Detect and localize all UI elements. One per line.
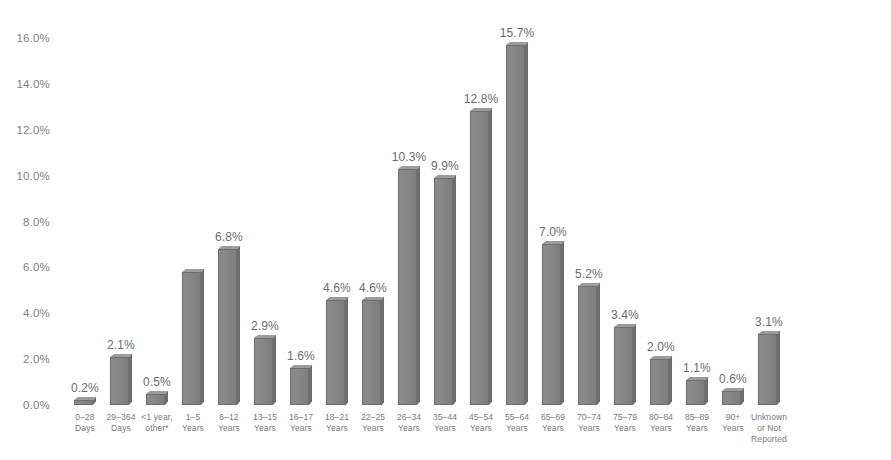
bar-group[interactable]: 9.9%35–44Years: [427, 0, 463, 460]
bar[interactable]: 9.9%: [434, 178, 456, 405]
bar-side-face: [417, 165, 420, 405]
bar-group[interactable]: 1.1%85–89Years: [679, 0, 715, 460]
bar-top-face: [398, 166, 421, 169]
bar-front-face: [686, 380, 705, 405]
x-axis-category-line: 13–15: [253, 412, 277, 422]
bar-group[interactable]: 2.1%29–364Days: [103, 0, 139, 460]
bar-front-face: [722, 391, 741, 405]
bar-group[interactable]: 4.6%18–21Years: [319, 0, 355, 460]
bar-group[interactable]: 15.7%55–64Years: [499, 0, 535, 460]
bar-group[interactable]: 1–5Years: [175, 0, 211, 460]
bar-front-face: [434, 178, 453, 405]
y-axis-tick-label: 10.0%: [16, 170, 50, 182]
bar-value-label: 12.8%: [464, 92, 499, 106]
bar-value-label: 1.6%: [287, 349, 315, 363]
bar[interactable]: 5.2%: [578, 286, 600, 405]
bar[interactable]: 4.6%: [326, 300, 348, 406]
bar-side-face: [273, 335, 276, 405]
bar-side-face: [633, 323, 636, 405]
bar-top-face: [758, 331, 781, 334]
x-axis-category-line: 70–74: [577, 412, 601, 422]
bar[interactable]: [182, 272, 204, 405]
bar-top-face: [326, 297, 349, 300]
bar-top-face: [362, 297, 385, 300]
bar-group[interactable]: 0.6%90+Years: [715, 0, 751, 460]
bar[interactable]: 2.1%: [110, 357, 132, 405]
bar[interactable]: 3.1%: [758, 334, 780, 405]
bar-value-label: 0.6%: [719, 372, 747, 386]
bar-group[interactable]: 2.9%13–15Years: [247, 0, 283, 460]
bar[interactable]: 3.4%: [614, 327, 636, 405]
bar[interactable]: 12.8%: [470, 111, 492, 405]
x-axis-category-line: 65–69: [541, 412, 565, 422]
bar-group[interactable]: 3.4%75–79Years: [607, 0, 643, 460]
y-axis-tick-label: 4.0%: [23, 307, 50, 319]
x-axis-category-line: 22–25: [361, 412, 385, 422]
x-axis-category-line: 18–21: [325, 412, 349, 422]
bar-group[interactable]: 6.8%6–12Years: [211, 0, 247, 460]
bar-group[interactable]: 5.2%70–74Years: [571, 0, 607, 460]
bar-front-face: [74, 400, 93, 405]
x-axis-category-line: 26–34: [397, 412, 421, 422]
bar-chart: 0.0%2.0%4.0%6.0%8.0%10.0%12.0%14.0%16.0%…: [0, 0, 891, 460]
bar-side-face: [705, 376, 708, 405]
bar-value-label: 3.4%: [611, 308, 639, 322]
bar[interactable]: 1.1%: [686, 380, 708, 405]
y-axis-tick-label: 14.0%: [16, 78, 50, 90]
x-axis-category-line: 16–17: [289, 412, 313, 422]
bar[interactable]: 2.9%: [254, 338, 276, 405]
bar-top-face: [434, 175, 457, 178]
x-axis-category-line: 6–12: [219, 412, 238, 422]
bar-top-face: [110, 354, 133, 357]
bar-group[interactable]: 7.0%65–69Years: [535, 0, 571, 460]
bar-group[interactable]: 2.0%80–84Years: [643, 0, 679, 460]
bar-value-label: 0.5%: [143, 375, 171, 389]
bar-value-label: 2.1%: [107, 338, 135, 352]
x-axis-category-line: 0–28: [75, 412, 94, 422]
y-axis-tick-label: 12.0%: [16, 124, 50, 136]
bar[interactable]: 0.2%: [74, 400, 96, 405]
bar-side-face: [453, 174, 456, 405]
x-axis-category-line: Reported: [743, 434, 795, 445]
bar-front-face: [470, 111, 489, 405]
bar-group[interactable]: 0.5%<1 year,other*: [139, 0, 175, 460]
x-axis-category-label: Unknownor NotReported: [743, 412, 795, 445]
bar[interactable]: 0.6%: [722, 391, 744, 405]
bar-group[interactable]: 12.8%45–54Years: [463, 0, 499, 460]
bar-top-face: [218, 246, 241, 249]
bar-group[interactable]: 10.3%26–34Years: [391, 0, 427, 460]
bar-side-face: [309, 364, 312, 405]
bar-value-label: 6.8%: [215, 230, 243, 244]
bar[interactable]: 7.0%: [542, 244, 564, 405]
bar-group[interactable]: 0.2%0–28Days: [67, 0, 103, 460]
bar[interactable]: 1.6%: [290, 368, 312, 405]
x-axis-category-line: 80–84: [649, 412, 673, 422]
bar-value-label: 7.0%: [539, 225, 567, 239]
bar-value-label: 2.0%: [647, 340, 675, 354]
bar-group[interactable]: 4.6%22–25Years: [355, 0, 391, 460]
bar-top-face: [146, 391, 169, 394]
bar[interactable]: 2.0%: [650, 359, 672, 405]
x-axis-category-line: 75–79: [613, 412, 637, 422]
bar[interactable]: 6.8%: [218, 249, 240, 405]
y-axis-tick-label: 16.0%: [16, 32, 50, 44]
bar-front-face: [578, 286, 597, 405]
bar-top-face: [182, 269, 205, 272]
bar-top-face: [650, 356, 673, 359]
bar-group[interactable]: 1.6%16–17Years: [283, 0, 319, 460]
bar-value-label: 1.1%: [683, 361, 711, 375]
bar[interactable]: 10.3%: [398, 169, 420, 405]
x-axis-category-line: 85–89: [685, 412, 709, 422]
x-axis-category-line: 90+: [726, 412, 741, 422]
bar-value-label: 0.2%: [71, 381, 99, 395]
bar-front-face: [326, 300, 345, 406]
bar-front-face: [218, 249, 237, 405]
bar-side-face: [237, 245, 240, 405]
bar[interactable]: 15.7%: [506, 45, 528, 405]
bar-value-label: 10.3%: [392, 150, 427, 164]
y-axis: 0.0%2.0%4.0%6.0%8.0%10.0%12.0%14.0%16.0%: [0, 0, 58, 460]
bar[interactable]: 0.5%: [146, 394, 168, 405]
bar-side-face: [525, 41, 528, 405]
bar[interactable]: 4.6%: [362, 300, 384, 406]
bar-group[interactable]: 3.1%Unknownor NotReported: [751, 0, 787, 460]
